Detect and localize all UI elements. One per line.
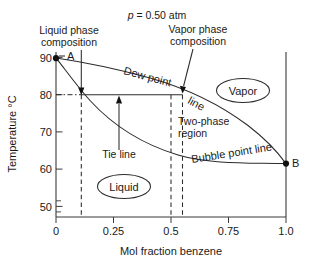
liquid-region-label: Liquid (109, 181, 138, 193)
point-b-marker (283, 161, 289, 167)
y-tick-label: 90 (40, 52, 52, 64)
liquid-phase-composition-line1: Liquid phase (39, 24, 99, 36)
plot-title-rest: = 0.50 atm (134, 9, 187, 21)
y-axis-ticks (56, 57, 63, 212)
vapor-region-label: Vapor (229, 85, 258, 97)
point-a-marker (53, 55, 59, 61)
y-tick-label: 50 (40, 201, 52, 213)
two-phase-region-line1: Two-phase (178, 115, 230, 127)
x-tick-label: 1.0 (278, 225, 293, 237)
y-tick-label: 60 (40, 163, 52, 175)
x-axis-title: Mol fraction benzene (120, 245, 222, 257)
x-axis-ticks (56, 217, 286, 223)
vapor-composition-leader (184, 49, 193, 86)
two-phase-region-annotation: Two-phase region (178, 115, 230, 139)
x-tick-label: 0.25 (103, 225, 124, 237)
dew-point-line-label: Dew point (122, 64, 172, 88)
vapor-phase-composition-annotation: Vapor phase composition (169, 23, 228, 94)
y-axis-tick-labels: 90 80 70 60 50 (40, 52, 52, 213)
y-tick-label: 70 (40, 126, 52, 138)
vapor-region-badge: Vapor (217, 79, 270, 103)
x-axis-tick-labels: 0 0.25 0.5 0.75 1.0 (53, 225, 294, 237)
dew-point-line-label-tail: line (186, 94, 207, 113)
tie-line-annotation: Tie line (102, 96, 136, 160)
x-tick-label: 0.75 (218, 225, 239, 237)
liquid-phase-composition-line2: composition (41, 36, 97, 48)
vapor-phase-composition-line2: composition (170, 35, 226, 47)
point-b-label: B (292, 157, 299, 169)
phase-diagram-figure: p = 0.50 atm 90 80 70 60 50 0 0.25 0.5 0… (0, 0, 311, 273)
liquid-composition-arrowhead (78, 88, 84, 96)
liquid-region-badge: Liquid (98, 175, 151, 199)
y-tick-label: 80 (40, 89, 52, 101)
x-tick-label: 0 (53, 225, 59, 237)
two-phase-region-line2: region (178, 127, 207, 139)
tie-line-arrowhead (116, 96, 122, 104)
plot-title: p = 0.50 atm (127, 9, 187, 21)
vapor-phase-composition-line1: Vapor phase (169, 23, 228, 35)
bubble-point-line-label: Bubble point line (190, 140, 272, 165)
x-tick-label: 0.5 (163, 225, 178, 237)
point-a-label: A (67, 50, 75, 62)
y-axis-title: Temperature °C (6, 95, 18, 172)
